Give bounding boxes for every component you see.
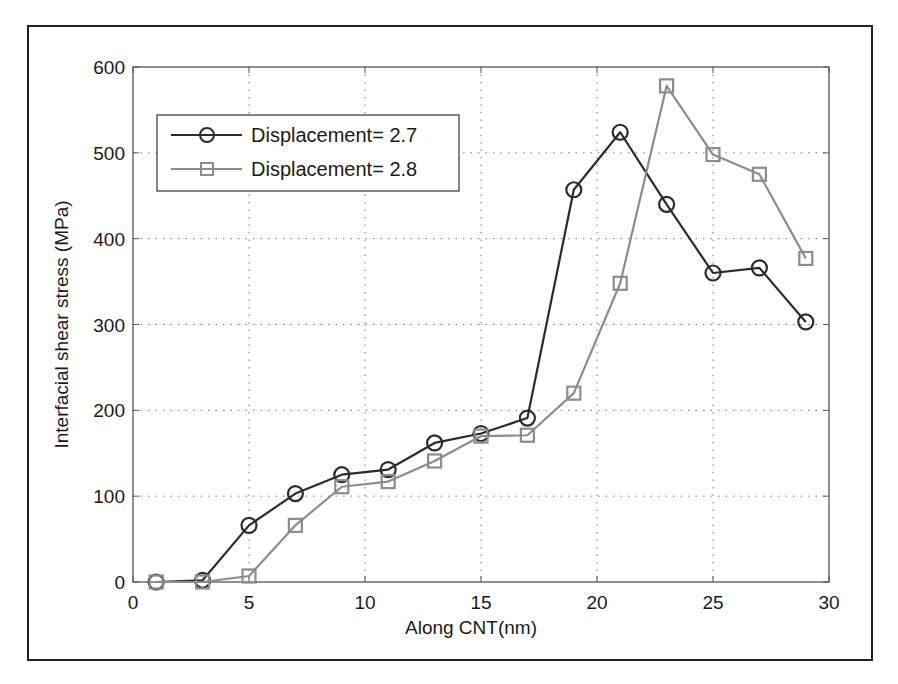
y-tick-label: 0 — [114, 572, 125, 593]
legend-label: Displacement= 2.7 — [251, 124, 417, 146]
x-tick-label: 15 — [470, 592, 491, 613]
x-tick-label: 0 — [128, 592, 139, 613]
x-tick-label: 5 — [244, 592, 255, 613]
x-tick-label: 25 — [702, 592, 723, 613]
x-tick-label: 30 — [818, 592, 839, 613]
y-tick-label: 200 — [93, 400, 125, 421]
legend-label: Displacement= 2.8 — [251, 158, 417, 180]
legend-item-series-1: Displacement= 2.7 — [171, 124, 417, 146]
series-1 — [149, 125, 814, 590]
line-chart: 0510152025300100200300400500600 Along CN… — [0, 0, 898, 684]
y-tick-label: 500 — [93, 143, 125, 164]
x-axis-label: Along CNT(nm) — [405, 617, 537, 638]
x-tick-label: 20 — [586, 592, 607, 613]
y-axis-label: Interfacial shear stress (MPa) — [51, 200, 72, 448]
y-tick-label: 300 — [93, 315, 125, 336]
y-tick-label: 600 — [93, 57, 125, 78]
y-tick-label: 400 — [93, 229, 125, 250]
x-tick-label: 10 — [354, 592, 375, 613]
legend: Displacement= 2.7 Displacement= 2.8 — [157, 115, 459, 191]
y-tick-label: 100 — [93, 486, 125, 507]
